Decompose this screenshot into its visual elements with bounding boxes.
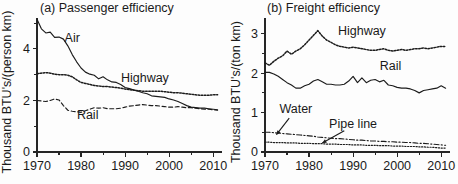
y-tick-label: 2 [23, 94, 30, 108]
chart-panel-passenger-efficiency: (a) Passenger efficiencyThousand BTU's/(… [0, 0, 229, 184]
series-label-highway: Highway [121, 71, 170, 85]
x-tick-label: 1990 [339, 159, 367, 173]
series-label-rail: Rail [77, 108, 99, 122]
y-tick-label: 2 [251, 67, 258, 81]
series-label-water: Water [279, 102, 312, 116]
series-label-pipe-line: Pipe line [329, 117, 377, 131]
x-tick-label: 2010 [199, 159, 227, 173]
series-label-air: Air [65, 31, 80, 45]
series-line-water [265, 132, 446, 145]
x-tick-label: 2000 [383, 159, 411, 173]
series-label-highway: Highway [338, 24, 387, 38]
figure-container: (a) Passenger efficiencyThousand BTU's/(… [0, 0, 458, 184]
y-tick-label: 3 [251, 27, 258, 41]
y-tick-label: 0 [23, 145, 30, 159]
y-axis-label: Thousand BTU's/(ton km) [229, 21, 243, 163]
freight-efficiency-svg: (b) Freight efficiencyThousand BTU's/(to… [229, 0, 458, 184]
chart-panel-freight-efficiency: (b) Freight efficiencyThousand BTU's/(to… [229, 0, 458, 184]
y-tick-label: 1 [251, 106, 258, 120]
x-tick-label: 1980 [295, 159, 323, 173]
series-line-rail [265, 72, 446, 92]
passenger-efficiency-svg: (a) Passenger efficiencyThousand BTU's/(… [0, 0, 229, 184]
series-line-rail [37, 99, 218, 112]
y-tick-label: 0 [251, 145, 258, 159]
series-label-rail: Rail [380, 59, 402, 73]
y-axis-label: Thousand BTU's/(person km) [0, 11, 14, 174]
x-tick-label: 1990 [111, 159, 139, 173]
panel-title: (b) Freight efficiency [267, 1, 381, 15]
x-tick-label: 2000 [155, 159, 183, 173]
y-tick-label: 4 [23, 42, 30, 56]
x-tick-label: 2010 [427, 159, 455, 173]
panel-title: (a) Passenger efficiency [40, 1, 175, 15]
x-tick-label: 1980 [67, 159, 95, 173]
x-tick-label: 1970 [23, 159, 51, 173]
series-line-pipe-line [265, 142, 446, 148]
x-tick-label: 1970 [251, 159, 279, 173]
